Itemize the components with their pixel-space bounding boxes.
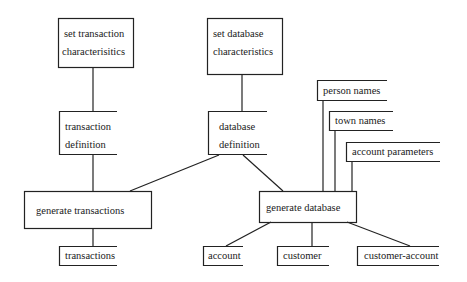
edge-gendb-customeraccount bbox=[347, 222, 410, 246]
svg-text:transactions: transactions bbox=[65, 250, 115, 261]
svg-text:person names: person names bbox=[323, 85, 380, 96]
svg-text:generate database: generate database bbox=[266, 202, 341, 213]
svg-text:account parameters: account parameters bbox=[352, 146, 433, 157]
node-town-names: town names bbox=[330, 112, 394, 131]
svg-text:definition: definition bbox=[65, 139, 107, 150]
node-account-parameters: account parameters bbox=[347, 143, 441, 162]
svg-text:definition: definition bbox=[219, 139, 261, 150]
svg-text:characterisitics: characterisitics bbox=[62, 46, 125, 57]
edge-dbdef-gendb bbox=[243, 155, 283, 191]
svg-text:transaction: transaction bbox=[65, 121, 112, 132]
node-generate-transactions: generate transactions bbox=[25, 192, 152, 229]
diagram-canvas: set transaction characterisitics set dat… bbox=[0, 0, 467, 282]
edge-gendb-account bbox=[226, 222, 271, 246]
node-set-transaction-characteristics: set transaction characterisitics bbox=[59, 19, 134, 68]
svg-text:customer-account: customer-account bbox=[364, 250, 439, 261]
svg-text:account: account bbox=[208, 250, 241, 261]
svg-text:set transaction: set transaction bbox=[64, 28, 125, 39]
node-set-database-characteristics: set database characteristics bbox=[208, 19, 283, 75]
svg-text:database: database bbox=[219, 121, 255, 132]
svg-text:generate transactions: generate transactions bbox=[36, 205, 124, 216]
svg-text:customer: customer bbox=[283, 250, 322, 261]
node-customer: customer bbox=[278, 247, 330, 266]
edge-dbdef-gentx bbox=[130, 155, 219, 191]
svg-text:town names: town names bbox=[335, 115, 385, 126]
node-person-names: person names bbox=[318, 81, 388, 101]
node-transactions: transactions bbox=[60, 247, 118, 266]
node-account: account bbox=[204, 247, 244, 266]
node-customer-account: customer-account bbox=[358, 247, 440, 266]
node-generate-database: generate database bbox=[260, 192, 357, 223]
node-database-definition: database definition bbox=[209, 112, 268, 155]
node-transaction-definition: transaction definition bbox=[60, 112, 118, 155]
svg-text:set database: set database bbox=[213, 28, 264, 39]
svg-text:characteristics: characteristics bbox=[213, 46, 273, 57]
